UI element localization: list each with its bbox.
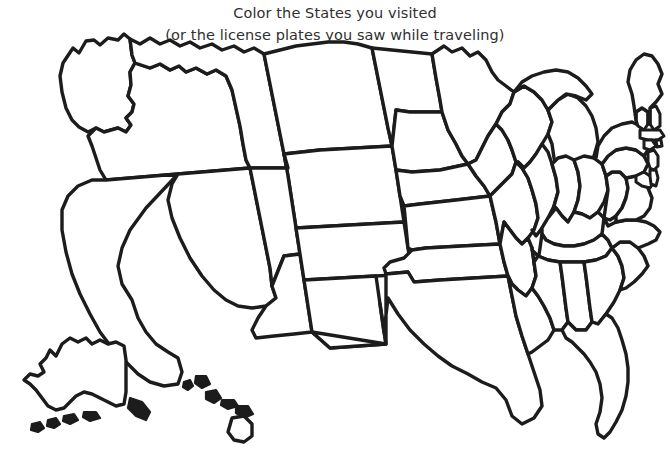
alaska-aleutian-island-2[interactable] <box>47 418 60 428</box>
state-NC[interactable] <box>602 218 660 248</box>
state-FL[interactable] <box>562 314 628 438</box>
alaska-aleutian-island-4[interactable] <box>83 412 100 421</box>
state-WY[interactable] <box>284 146 404 228</box>
state-AK[interactable] <box>24 338 126 410</box>
hawaii-island-niihau[interactable] <box>183 380 193 390</box>
state-RI[interactable] <box>656 140 662 147</box>
alaska-aleutian-island-3[interactable] <box>63 414 78 424</box>
state-DE[interactable] <box>650 170 658 186</box>
state-CT[interactable] <box>644 140 656 150</box>
alaska-peninsula-tip[interactable] <box>128 398 150 420</box>
coloring-page: Color the States you visited (or the lic… <box>0 0 670 465</box>
alaska-aleutian-island-1[interactable] <box>31 422 44 432</box>
state-NJ[interactable] <box>648 150 658 170</box>
hawaii-island-kauai[interactable] <box>195 376 210 388</box>
hawaii-island-oahu[interactable] <box>206 390 221 403</box>
us-states-outline-svg[interactable] <box>0 0 670 465</box>
state-WA[interactable] <box>60 34 135 132</box>
hawaii-island-hawaii[interactable] <box>228 416 252 442</box>
state-KS[interactable] <box>404 196 500 250</box>
us-map[interactable] <box>0 0 670 465</box>
